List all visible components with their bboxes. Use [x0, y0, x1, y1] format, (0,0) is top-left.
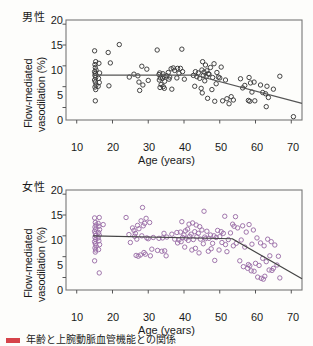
chart-panel-male: 男性 Flow-mediated vasodilation (%) 20 15 … — [0, 0, 313, 170]
chart-panel-female: 女性 Flow-mediated vasodilation (%) 20 15 … — [0, 166, 313, 328]
caption-marker-icon — [6, 338, 20, 343]
scatter-plot-male — [0, 0, 313, 170]
figure-caption: 年齢と上腕動脈血管機能との関係 — [26, 331, 176, 346]
scatter-plot-female — [0, 166, 313, 328]
